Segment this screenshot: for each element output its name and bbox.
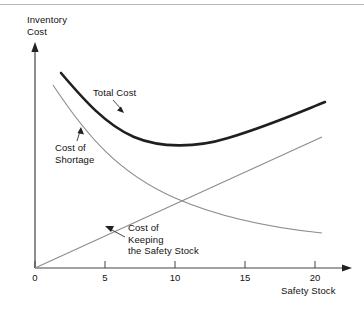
x-axis xyxy=(35,264,352,271)
annotation-cost-of-shortage-line1: Cost of xyxy=(55,142,86,153)
x-axis-ticks xyxy=(35,261,315,268)
annotation-cost-of-keeping-line2: Keeping xyxy=(128,234,164,245)
annotation-cost-of-shortage: Cost ofShortage xyxy=(55,142,94,165)
y-axis xyxy=(31,42,38,268)
x-tick-label-20: 20 xyxy=(305,272,325,283)
annotation-cost-of-shortage-line2: Shortage xyxy=(55,154,94,165)
x-tick-label-5: 5 xyxy=(95,272,115,283)
y-axis-label-line1: Inventory xyxy=(27,14,67,25)
total-cost-leader-arrow xyxy=(113,100,124,113)
annotation-cost-of-keeping-line3: the Safety Stock xyxy=(128,245,199,256)
y-axis-label-line2: Cost xyxy=(27,26,47,37)
inventory-cost-chart: InventoryCost Safety Stock 0 5 10 15 20 … xyxy=(0,0,364,311)
cost-of-keeping-leader-arrow xyxy=(105,226,125,237)
x-tick-label-15: 15 xyxy=(235,272,255,283)
curve-total-cost xyxy=(61,73,325,145)
cost-of-shortage-leader-arrow xyxy=(77,127,84,141)
x-axis-label: Safety Stock xyxy=(281,285,336,297)
x-tick-label-0: 0 xyxy=(25,272,45,283)
x-tick-label-10: 10 xyxy=(165,272,185,283)
annotation-cost-of-keeping: Cost ofKeepingthe Safety Stock xyxy=(128,222,199,257)
annotation-total-cost: Total Cost xyxy=(93,87,136,99)
y-axis-label: InventoryCost xyxy=(27,14,67,37)
annotation-cost-of-keeping-line1: Cost of xyxy=(128,222,159,233)
